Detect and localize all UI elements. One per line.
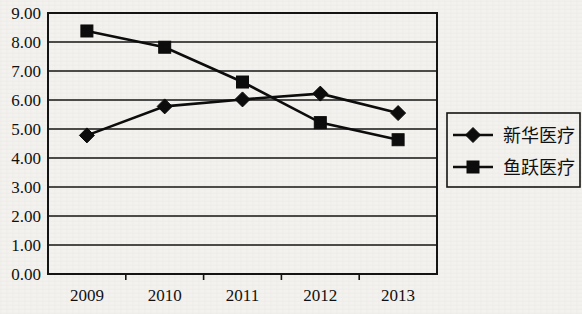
data-point-marker xyxy=(313,86,328,101)
plot-frame xyxy=(48,13,437,274)
chart-axes xyxy=(48,13,437,274)
data-point-marker xyxy=(391,106,406,121)
data-point-marker xyxy=(466,128,481,143)
data-point-marker xyxy=(79,128,94,143)
data-point-marker xyxy=(467,161,479,173)
y-axis-tick-label: 5.00 xyxy=(11,120,41,139)
y-axis-tick-label: 4.00 xyxy=(11,149,41,168)
y-axis-tick-labels: 0.001.002.003.004.005.006.007.008.009.00 xyxy=(11,4,41,284)
x-axis-tick-label: 2010 xyxy=(148,286,182,305)
gridlines xyxy=(48,13,437,274)
y-axis-tick-label: 2.00 xyxy=(11,207,41,226)
legend-entry-label: 鱼跃医疗 xyxy=(503,157,575,178)
legend-entry-label: 新华医疗 xyxy=(503,125,575,146)
y-axis-tick-label: 0.00 xyxy=(11,265,41,284)
x-axis-tick-label: 2009 xyxy=(70,286,104,305)
y-axis-tick-label: 9.00 xyxy=(11,4,41,23)
data-point-marker xyxy=(314,117,326,129)
data-point-marker xyxy=(157,99,172,114)
y-axis-tick-label: 7.00 xyxy=(11,62,41,81)
data-point-marker xyxy=(81,25,93,37)
y-axis-tick-label: 8.00 xyxy=(11,33,41,52)
chart-canvas: 0.001.002.003.004.005.006.007.008.009.00… xyxy=(0,0,582,314)
data-point-marker xyxy=(235,92,250,107)
line-chart: 0.001.002.003.004.005.006.007.008.009.00… xyxy=(0,0,582,314)
y-axis-tick-label: 6.00 xyxy=(11,91,41,110)
x-axis-tick-label: 2012 xyxy=(303,286,337,305)
data-series xyxy=(79,25,405,146)
x-axis-tick-labels: 20092010201120122013 xyxy=(70,286,415,305)
chart-legend: 新华医疗鱼跃医疗 xyxy=(447,113,580,187)
data-point-marker xyxy=(159,41,171,53)
y-axis-tick-label: 1.00 xyxy=(11,236,41,255)
x-axis-tick-label: 2011 xyxy=(226,286,259,305)
y-axis-tick-label: 3.00 xyxy=(11,178,41,197)
data-point-marker xyxy=(392,134,404,146)
data-point-marker xyxy=(237,76,249,88)
x-axis-tick-label: 2013 xyxy=(381,286,415,305)
